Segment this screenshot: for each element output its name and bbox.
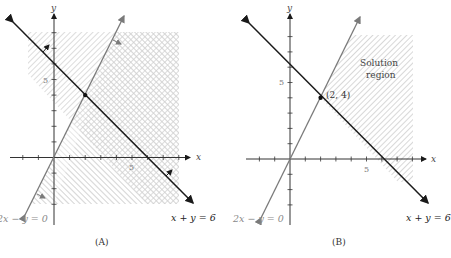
- panel-caption-a: (A): [95, 237, 109, 247]
- y-tick-label-5: 5: [43, 76, 48, 85]
- panel-a: y x 5 5 x + y = 6 2x − y = 0 (A): [0, 3, 216, 247]
- intersection-point: [83, 93, 87, 97]
- x-tick-label-5: 5: [129, 163, 134, 172]
- inequality-graphs-figure: y x 5 5 x + y = 6 2x − y = 0 (A): [0, 0, 451, 258]
- intersection-point: [318, 96, 322, 100]
- region-label-line1: Solution: [360, 58, 398, 68]
- line-label-2x-minus-y-eq-0: 2x − y = 0: [232, 213, 284, 224]
- point-label: (2, 4): [326, 90, 350, 100]
- x-axis-label: x: [431, 154, 436, 164]
- x-tick-label-5: 5: [364, 165, 369, 174]
- y-axis-label: y: [286, 3, 293, 13]
- panel-b: y x 5 5 (2, 4) Solution region x + y = 6…: [232, 3, 451, 247]
- line-label-x-plus-y-eq-6: x + y = 6: [171, 212, 216, 223]
- x-axis-label: x: [196, 152, 201, 162]
- line-label-2x-minus-y-eq-0: 2x − y = 0: [0, 213, 48, 224]
- region-label-line2: region: [366, 70, 396, 80]
- panel-caption-b: (B): [332, 237, 346, 247]
- line-label-x-plus-y-eq-6: x + y = 6: [406, 212, 451, 223]
- y-tick-label-5: 5: [279, 78, 284, 87]
- y-axis-label: y: [50, 3, 57, 13]
